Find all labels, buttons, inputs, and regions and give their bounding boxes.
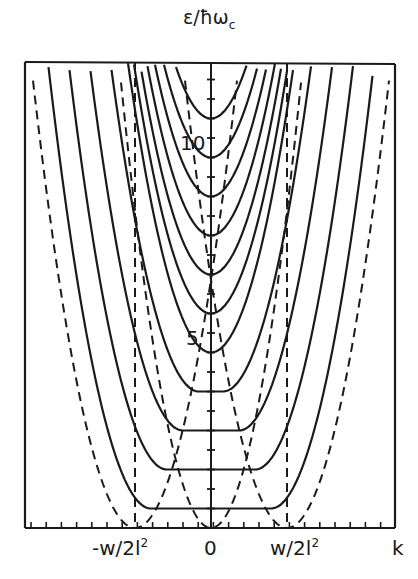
x-tick-neg-sup: 2 (141, 536, 149, 550)
y-axis-label-main: ε/ħω (183, 6, 229, 28)
x-tick-neg-w: -w/2l2 (92, 536, 148, 560)
x-tick-pos-sup: 2 (311, 536, 319, 550)
y-axis-label: ε/ħωc (183, 6, 235, 32)
x-tick-neg-text: -w/2l (92, 536, 141, 560)
x-tick-pos-text: w/2l (270, 536, 311, 560)
landau-level-plot (0, 0, 418, 579)
x-tick-zero: 0 (204, 536, 217, 560)
y-tick-label-10: 10 (180, 131, 205, 155)
x-tick-pos-w: w/2l2 (270, 536, 319, 560)
y-tick-label-5: 5 (186, 326, 199, 350)
x-axis-label-k: k (392, 536, 404, 560)
y-axis-label-sub: c (229, 18, 236, 32)
